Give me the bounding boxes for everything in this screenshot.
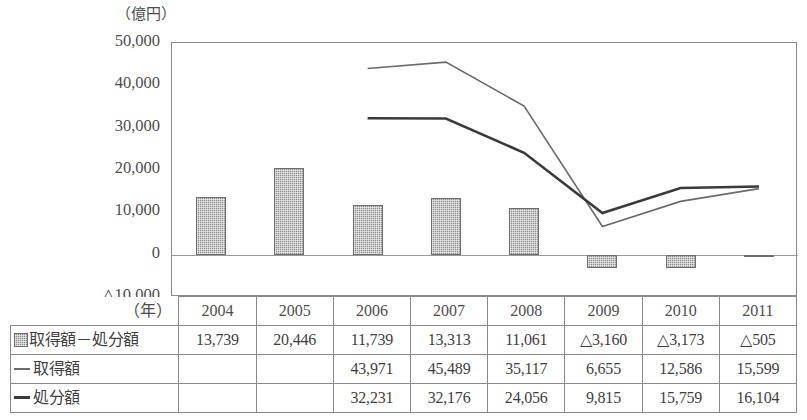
table-cell — [256, 384, 333, 413]
y-axis-tick-label: 50,000 — [52, 31, 160, 51]
table-row: 取得額－処分額13,73920,44611,73913,31311,061△3,… — [11, 326, 797, 355]
y-axis-tick-label: 10,000 — [52, 200, 160, 220]
table-cell: 11,061 — [488, 326, 565, 355]
y-axis-tick-label: 20,000 — [52, 158, 160, 178]
table-col-header: 2005 — [256, 297, 333, 326]
y-axis-tick-label: 0 — [52, 243, 160, 263]
table-cell: △3,160 — [565, 326, 642, 355]
table-row-label: 取得額 — [11, 355, 179, 384]
table-row-label-text: 取得額 — [33, 360, 80, 377]
table-cell: 35,117 — [488, 355, 565, 384]
table-cell — [256, 355, 333, 384]
y-axis-tick-label: 40,000 — [52, 73, 160, 93]
table-head: （年） 2004 2005 2006 2007 2008 2009 2010 2… — [11, 297, 797, 326]
table-cell: 43,971 — [333, 355, 410, 384]
data-table: （年） 2004 2005 2006 2007 2008 2009 2010 2… — [10, 296, 797, 413]
table-cell — [179, 355, 256, 384]
table-cell: 45,489 — [410, 355, 487, 384]
table-cell: 12,586 — [642, 355, 719, 384]
table-cell: 24,056 — [488, 384, 565, 413]
legend-thick-line-icon — [14, 396, 30, 399]
table-row: 処分額32,23132,17624,0569,81515,75916,104 — [11, 384, 797, 413]
table-cell: △3,173 — [642, 326, 719, 355]
chart-figure: （億円） 50,00040,00030,00020,00010,0000△10,… — [0, 0, 807, 420]
legend-bar-swatch-icon — [14, 333, 28, 347]
table-row-label: 処分額 — [11, 384, 179, 413]
table-row-label-text: 処分額 — [33, 389, 80, 406]
y-axis-tick-label: 30,000 — [52, 116, 160, 136]
legend-thin-line-icon — [14, 368, 30, 370]
table-cell: 15,599 — [719, 355, 796, 384]
table-body: 取得額－処分額13,73920,44611,73913,31311,061△3,… — [11, 326, 797, 413]
plot-area — [171, 42, 797, 296]
table-cell: 32,231 — [333, 384, 410, 413]
table-col-header: 2006 — [333, 297, 410, 326]
table-col-header: 2011 — [719, 297, 796, 326]
table-cell: △505 — [719, 326, 796, 355]
line-series-svg — [172, 43, 798, 297]
table-cell: 9,815 — [565, 384, 642, 413]
table-col-header: 2009 — [565, 297, 642, 326]
table-col-header: 2007 — [410, 297, 487, 326]
table-row: 取得額43,97145,48935,1176,65512,58615,599 — [11, 355, 797, 384]
table-header-row: （年） 2004 2005 2006 2007 2008 2009 2010 2… — [11, 297, 797, 326]
line-series-acquisition — [368, 62, 759, 226]
table-cell: 16,104 — [719, 384, 796, 413]
table-row-label-text: 取得額－処分額 — [29, 331, 139, 348]
table-row-label: 取得額－処分額 — [11, 326, 179, 355]
y-axis-unit-label: （億円） — [96, 2, 196, 23]
table-cell: 20,446 — [256, 326, 333, 355]
table-cell: 11,739 — [333, 326, 410, 355]
table-col-header: 2010 — [642, 297, 719, 326]
table-cell: 13,739 — [179, 326, 256, 355]
table-cell: 15,759 — [642, 384, 719, 413]
table-corner-year-label: （年） — [11, 297, 179, 326]
table-cell — [179, 384, 256, 413]
table-col-header: 2008 — [488, 297, 565, 326]
table-cell: 32,176 — [410, 384, 487, 413]
table-cell: 6,655 — [565, 355, 642, 384]
table-cell: 13,313 — [410, 326, 487, 355]
table-col-header: 2004 — [179, 297, 256, 326]
